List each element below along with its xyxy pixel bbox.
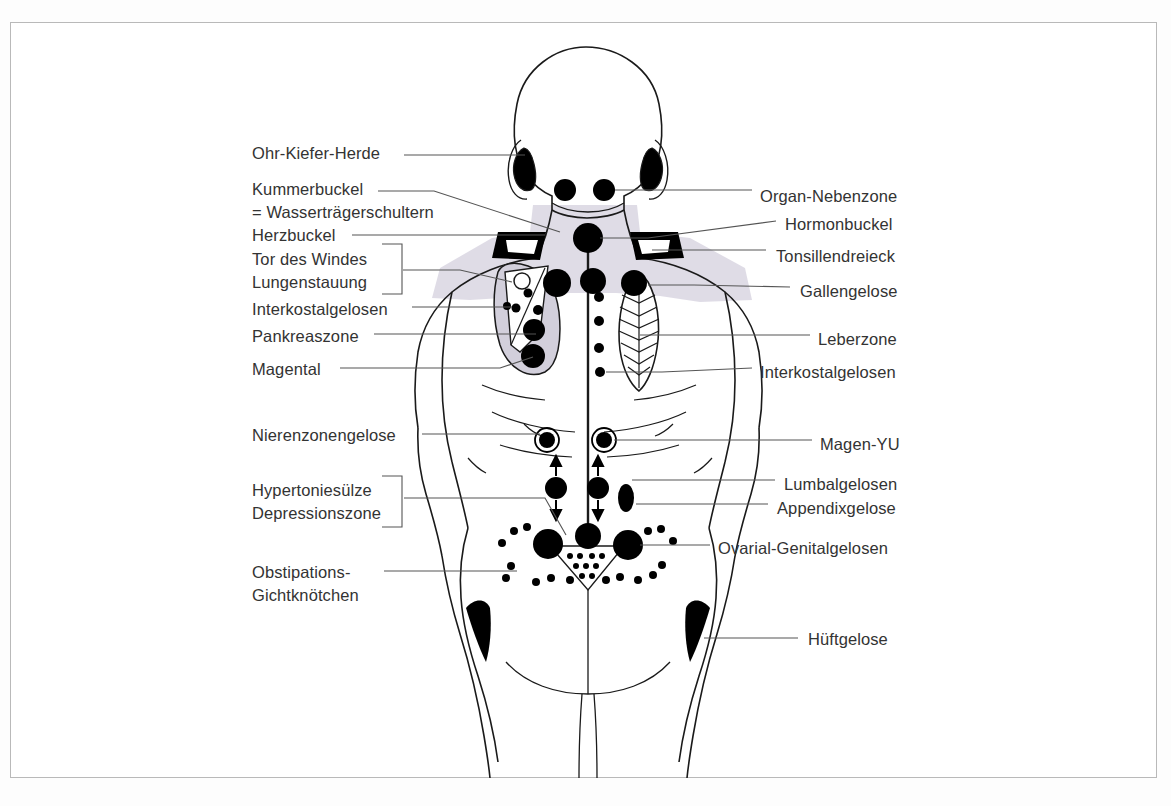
label-lumbalgelosen: Lumbalgelosen <box>784 473 897 495</box>
label-organ-nebenzone: Organ-Nebenzone <box>760 185 897 207</box>
label-text: Interkostalgelosen <box>760 363 896 381</box>
label-text: = Wasserträgerschultern <box>252 201 434 224</box>
label-text: Interkostalgelosen <box>252 300 388 318</box>
label-text: Kummerbuckel <box>252 178 434 201</box>
label-text: Magental <box>252 360 321 378</box>
label-gallengelose: Gallengelose <box>800 280 898 302</box>
label-kummerbuckel: Kummerbuckel = Wasserträgerschultern <box>252 178 434 224</box>
label-tonsillendreieck: Tonsillendreieck <box>776 245 895 267</box>
label-text: Gallengelose <box>800 282 898 300</box>
label-text: Ovarial-Genitalgelosen <box>718 539 888 557</box>
label-herzbuckel: Herzbuckel <box>252 224 336 246</box>
label-hypertoniesuelze-depressionszone: Hypertoniesülze Depressionszone <box>252 479 381 525</box>
label-text: Lungenstauung <box>252 271 367 294</box>
label-interkostalgelosen-right: Interkostalgelosen <box>760 361 896 383</box>
label-text: Lumbalgelosen <box>784 475 897 493</box>
label-text: Herzbuckel <box>252 226 336 244</box>
label-text: Depressionszone <box>252 502 381 525</box>
label-interkostalgelosen-left: Interkostalgelosen <box>252 298 388 320</box>
label-pankreaszone: Pankreaszone <box>252 325 359 347</box>
label-text: Hüftgelose <box>808 630 888 648</box>
page-frame <box>10 22 1157 778</box>
label-text: Magen-YU <box>820 435 900 453</box>
label-nierenzonengelose: Nierenzonengelose <box>252 424 396 446</box>
label-appendixgelose: Appendixgelose <box>777 497 896 519</box>
label-hormonbuckel: Hormonbuckel <box>785 213 893 235</box>
label-obstipations-gichtknoetchen: Obstipations- Gichtknötchen <box>252 561 359 607</box>
label-text: Tonsillendreieck <box>776 247 895 265</box>
label-text: Gichtknötchen <box>252 584 359 607</box>
label-text: Obstipations- <box>252 561 359 584</box>
label-ovarial-genitalgelosen: Ovarial-Genitalgelosen <box>718 537 888 559</box>
label-magental: Magental <box>252 358 321 380</box>
label-text: Ohr-Kiefer-Herde <box>252 144 380 162</box>
label-text: Organ-Nebenzone <box>760 187 897 205</box>
label-ohr-kiefer-herde: Ohr-Kiefer-Herde <box>252 142 380 164</box>
label-tor-des-windes-lungenstauung: Tor des Windes Lungenstauung <box>252 248 367 294</box>
label-text: Hypertoniesülze <box>252 479 381 502</box>
label-magen-yu: Magen-YU <box>820 433 900 455</box>
label-hueftgelose: Hüftgelose <box>808 628 888 650</box>
label-leberzone: Leberzone <box>818 328 897 350</box>
label-text: Tor des Windes <box>252 248 367 271</box>
label-text: Nierenzonengelose <box>252 426 396 444</box>
label-text: Hormonbuckel <box>785 215 893 233</box>
label-text: Leberzone <box>818 330 897 348</box>
label-text: Pankreaszone <box>252 327 359 345</box>
label-text: Appendixgelose <box>777 499 896 517</box>
